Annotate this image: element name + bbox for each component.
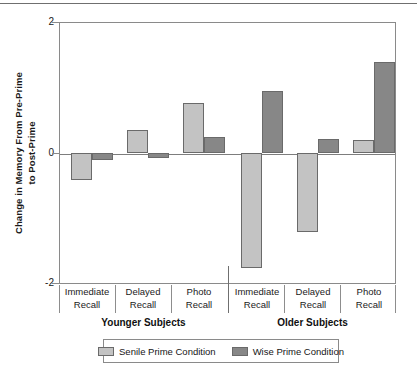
bar-younger-delayed-senile	[127, 130, 148, 153]
x-label-line-2: Recall	[285, 299, 341, 312]
y-tick-mark-0	[52, 153, 59, 154]
bar-older-delayed-senile	[297, 153, 318, 232]
x-label-older-delayed: Delayed Recall	[285, 285, 341, 315]
bar-older-immediate-wise	[262, 91, 283, 153]
legend-label-senile: Senile Prime Condition	[119, 346, 216, 357]
chart-legend: Senile Prime Condition Wise Prime Condit…	[103, 339, 339, 363]
top-divider-rule	[0, 3, 417, 4]
x-label-line-1: Delayed	[285, 286, 341, 299]
x-label-line-1: Photo	[171, 286, 227, 299]
x-label-line-1: Photo	[341, 286, 397, 299]
x-label-line-1: Immediate	[59, 286, 115, 299]
legend-item-wise: Wise Prime Condition	[232, 346, 344, 357]
legend-swatch-wise-icon	[232, 347, 248, 356]
bar-younger-photo-senile	[183, 103, 204, 153]
bar-older-photo-wise	[374, 62, 395, 153]
bar-older-delayed-wise	[318, 139, 339, 153]
x-label-younger-delayed: Delayed Recall	[115, 285, 171, 315]
x-label-line-2: Recall	[341, 299, 397, 312]
x-label-younger-immediate: Immediate Recall	[59, 285, 115, 315]
group-label-older: Older Subjects	[229, 317, 396, 328]
x-label-younger-photo: Photo Recall	[171, 285, 227, 315]
bar-younger-immediate-senile	[71, 153, 92, 180]
x-label-line-2: Recall	[171, 299, 227, 312]
y-axis-title-line-1: Change in Memory From Pre-Prime	[12, 72, 25, 234]
bars-layer	[59, 22, 396, 284]
bar-older-immediate-senile	[241, 153, 262, 268]
y-tick-label-2: 2	[34, 17, 54, 27]
y-tick-label-minus-2: -2	[34, 278, 54, 288]
legend-label-wise: Wise Prime Condition	[253, 346, 344, 357]
bar-younger-delayed-wise	[148, 153, 169, 158]
x-axis-category-labels: Immediate Recall Delayed Recall Photo Re…	[59, 285, 396, 315]
bar-younger-photo-wise	[204, 137, 225, 153]
x-label-line-2: Recall	[229, 299, 285, 312]
y-tick-label-0: 0	[34, 148, 54, 158]
group-label-younger: Younger Subjects	[59, 317, 228, 328]
bar-older-photo-senile	[353, 140, 374, 153]
x-label-line-1: Delayed	[115, 286, 171, 299]
y-tick-mark-minus-2	[52, 283, 59, 284]
figure-container: Change in Memory From Pre-Prime to Post-…	[0, 0, 417, 372]
x-label-line-2: Recall	[59, 299, 115, 312]
y-tick-mark-2	[52, 22, 59, 23]
x-label-older-immediate: Immediate Recall	[229, 285, 285, 315]
x-label-line-1: Immediate	[229, 286, 285, 299]
bar-younger-immediate-wise	[92, 153, 113, 160]
legend-item-senile: Senile Prime Condition	[98, 346, 216, 357]
x-label-line-2: Recall	[115, 299, 171, 312]
legend-swatch-senile-icon	[98, 347, 114, 356]
x-label-older-photo: Photo Recall	[341, 285, 397, 315]
